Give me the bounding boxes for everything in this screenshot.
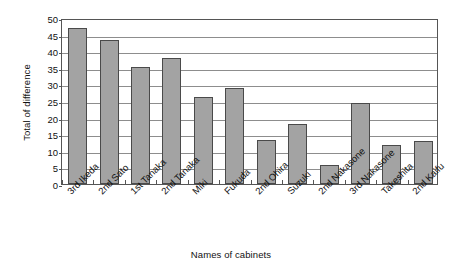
x-axis-tickmark <box>408 180 409 184</box>
bar <box>100 40 119 184</box>
bar-chart: Total of difference 05101520253035404550… <box>0 0 462 266</box>
y-axis-tick-label: 25 <box>18 98 58 108</box>
y-axis-tick-label: 10 <box>18 148 58 158</box>
x-axis-tickmark <box>313 180 314 184</box>
bar <box>131 67 150 184</box>
y-axis-tick-label: 0 <box>18 181 58 191</box>
x-axis-tickmark <box>188 180 189 184</box>
x-axis-tickmark <box>376 180 377 184</box>
x-axis-tickmark <box>251 180 252 184</box>
x-axis-title: Names of cabinets <box>0 249 462 260</box>
y-axis-tick-label: 20 <box>18 115 58 125</box>
x-axis-tickmark <box>219 180 220 184</box>
x-axis-tickmark <box>125 180 126 184</box>
y-axis-tick-label: 35 <box>18 65 58 75</box>
x-axis-tickmark <box>93 180 94 184</box>
x-axis-tickmark <box>156 180 157 184</box>
x-axis-tickmark <box>345 180 346 184</box>
x-axis-tickmark <box>62 180 63 184</box>
y-axis-tick-label: 5 <box>18 165 58 175</box>
y-axis-tick-label: 30 <box>18 82 58 92</box>
y-axis-tick-label: 45 <box>18 32 58 42</box>
y-axis-tick-label: 40 <box>18 48 58 58</box>
y-axis-tick-label: 50 <box>18 15 58 25</box>
x-axis-labels: 3rd Ikeda2nd Sato1st Tanaka2nd TanakaMik… <box>61 186 438 248</box>
bar <box>68 28 87 184</box>
y-axis-tick-label: 15 <box>18 131 58 141</box>
x-axis-tickmark <box>282 180 283 184</box>
bar <box>194 97 213 184</box>
